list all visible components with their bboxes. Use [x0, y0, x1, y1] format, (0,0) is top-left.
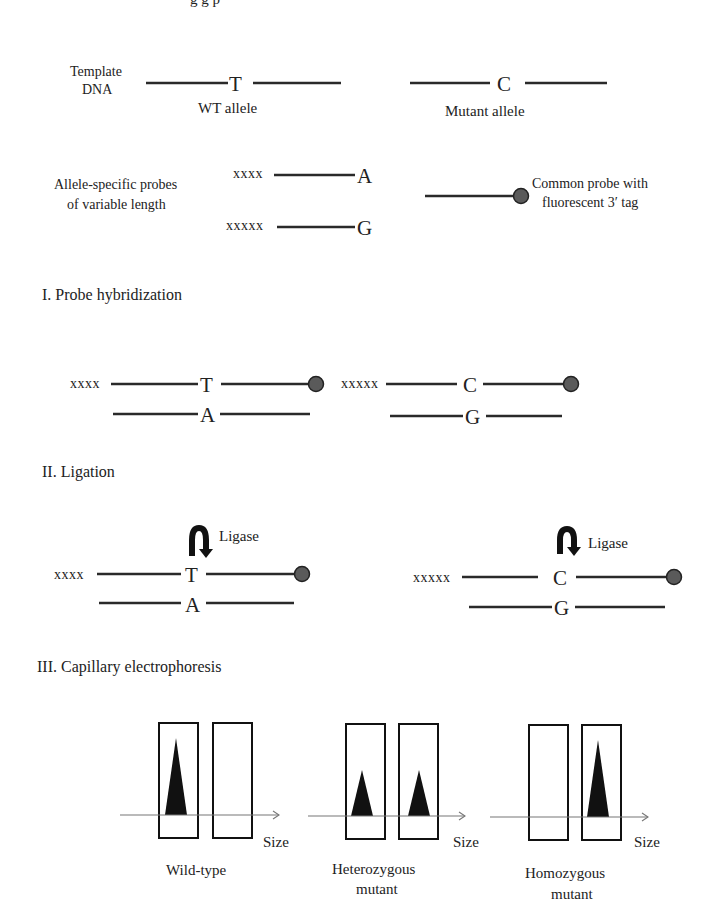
peak-icon	[587, 740, 609, 817]
lig-left-top-base: T	[185, 563, 198, 587]
ligase-arrowhead-icon	[567, 547, 581, 556]
panel-heterozygous: Size Heterozygous mutant	[308, 724, 479, 897]
panel-homozygous: Size Homozygous mutant	[490, 725, 660, 902]
common-probe: Common probe with fluorescent 3′ tag	[425, 176, 648, 210]
step3-title: III. Capillary electrophoresis	[37, 658, 221, 676]
probes-label-line2: of variable length	[67, 197, 166, 212]
hyb-left-top-base: T	[200, 373, 213, 397]
size-label: Size	[634, 834, 660, 850]
probe-g-tail: xxxxx	[226, 218, 264, 233]
title-fragment: g g p	[190, 0, 220, 7]
peak-icon	[165, 738, 187, 815]
step2-title: II. Ligation	[42, 463, 115, 481]
probe-a: xxxx A	[233, 164, 373, 188]
fluorescent-tag-icon	[295, 567, 310, 582]
fluorescent-tag-icon	[309, 377, 324, 392]
panel-label-line2: mutant	[356, 881, 398, 897]
ligase-arrowhead-icon	[199, 549, 213, 558]
peak-icon	[351, 770, 373, 816]
hyb-right: xxxxx C G	[341, 373, 579, 429]
lig-right-top-base: C	[553, 566, 567, 590]
cropped-title: g g p	[190, 0, 220, 7]
wt-allele-strand: T WT allele	[146, 72, 341, 116]
step2-ligation: II. Ligation Ligase xxxx T A Ligase xxxx…	[42, 463, 682, 620]
mutant-allele-strand: C Mutant allele	[410, 72, 607, 119]
common-label-line2: fluorescent 3′ tag	[542, 195, 638, 210]
lig-right-enzyme: Ligase	[588, 535, 628, 551]
template-label-line1: Template	[70, 64, 122, 79]
wt-base: T	[229, 72, 242, 96]
capillary-lane-short	[529, 725, 568, 840]
probe-a-base: A	[357, 164, 373, 188]
template-label-line2: DNA	[82, 82, 113, 97]
lig-left-bottom-base: A	[185, 593, 201, 617]
probe-a-tail: xxxx	[233, 166, 263, 181]
capillary-lane-long	[213, 723, 252, 838]
ligation-assay-diagram: g g p Template DNA T WT allele C Mutant …	[0, 0, 717, 910]
probe-g-base: G	[357, 216, 372, 240]
panel-label-line1: Homozygous	[525, 865, 605, 881]
capillary-lane-short	[346, 724, 385, 839]
panel-label: Wild-type	[166, 862, 227, 878]
template-dna-section: Template DNA T WT allele C Mutant allele	[70, 64, 607, 119]
step1-hybridization: I. Probe hybridization xxxx T A xxxxx C …	[42, 286, 579, 429]
hyb-left: xxxx T A	[70, 373, 324, 427]
lig-left-tail: xxxx	[54, 567, 84, 582]
size-label: Size	[453, 834, 479, 850]
hyb-right-bottom-base: G	[465, 405, 480, 429]
hyb-right-tail: xxxxx	[341, 376, 379, 391]
hyb-left-tail: xxxx	[70, 376, 100, 391]
probe-g: xxxxx G	[226, 216, 372, 240]
size-label: Size	[263, 834, 289, 850]
lig-right: Ligase xxxxx C G	[413, 529, 682, 620]
peak-icon	[408, 770, 430, 816]
lig-right-tail: xxxxx	[413, 570, 451, 585]
lig-right-bottom-base: G	[554, 596, 569, 620]
hyb-right-top-base: C	[463, 373, 477, 397]
panel-label-line2: mutant	[551, 886, 593, 902]
fluorescent-tag-icon	[667, 570, 682, 585]
step1-title: I. Probe hybridization	[42, 286, 182, 304]
common-label-line1: Common probe with	[532, 176, 648, 191]
fluorescent-tag-icon	[564, 377, 579, 392]
probes-label-line1: Allele-specific probes	[54, 177, 177, 192]
hyb-left-bottom-base: A	[200, 403, 216, 427]
step3-electrophoresis: III. Capillary electrophoresis Size Wild…	[37, 658, 660, 902]
mut-base: C	[497, 72, 511, 96]
lig-left: Ligase xxxx T A	[54, 528, 310, 617]
panel-label-line1: Heterozygous	[332, 861, 415, 877]
mutant-allele-label: Mutant allele	[445, 103, 525, 119]
wt-allele-label: WT allele	[198, 100, 258, 116]
probes-section: Allele-specific probes of variable lengt…	[54, 164, 648, 240]
lig-left-enzyme: Ligase	[219, 528, 259, 544]
panel-wild-type: Size Wild-type	[120, 723, 289, 878]
fluorescent-tag-icon	[514, 189, 529, 204]
